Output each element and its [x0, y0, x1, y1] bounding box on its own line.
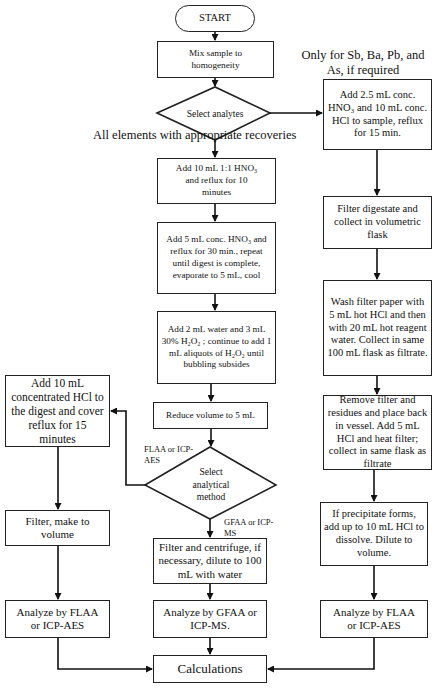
add-h2o2-step: Add 2 mL water and 3 mL 30% H₂O₂ ; conti…	[157, 311, 276, 384]
select-analytes-label: Select analytes	[185, 97, 245, 131]
remove-filter-step: Remove filter and residues and place bac…	[323, 395, 432, 470]
add-hno3-reflux-step: Add 10 mL 1:1 HNO₃ and reflux for 10 min…	[157, 158, 276, 204]
select-method-label: Select analytical method	[180, 462, 242, 508]
analyze-flaa-right-step: Analyze by FLAA or ICP-AES	[320, 600, 428, 638]
add-conc-hno3-step: Add 5 mL conc. HNO₃ and reflux for 30 mi…	[157, 222, 276, 294]
analyze-flaa-left-step: Analyze by FLAA or ICP-AES	[5, 600, 110, 638]
note-only-sb-ba-pb-as: Only for Sb, Ba, Pb, and As, if required	[293, 48, 433, 78]
wash-filter-step: Wash filter paper with 5 mL hot HCl and …	[323, 280, 432, 376]
start-terminal: START	[175, 5, 255, 32]
reduce-volume-step: Reduce volume to 5 mL	[153, 402, 268, 429]
mix-sample-step: Mix sample to homogeneity	[157, 41, 274, 78]
branch-gfaa-icp-ms: GFAA or ICP-MS	[224, 517, 274, 538]
add-conc-hcl-step: Add 10 mL concentrated HCl to the digest…	[5, 375, 110, 447]
add-hno3-hcl-step: Add 2.5 mL conc. HNO₃ and 10 mL conc. HC…	[323, 79, 432, 150]
branch-flaa-icp-aes: FLAA or ICP-AES	[144, 444, 194, 465]
precipitate-step: If precipitate forms, add up to 10 mL HC…	[320, 502, 428, 566]
analyze-gfaa-step: Analyze by GFAA or ICP-MS.	[153, 600, 267, 638]
filter-digestate-step: Filter digestate and collect in volumetr…	[323, 196, 432, 249]
filter-make-volume-step: Filter, make to volume	[5, 510, 110, 546]
note-all-elements: All elements with appropriate recoveries	[93, 128, 296, 143]
filter-centrifuge-step: Filter and centrifuge, if necessary, dil…	[153, 538, 267, 584]
calculations-step: Calculations	[153, 655, 267, 683]
